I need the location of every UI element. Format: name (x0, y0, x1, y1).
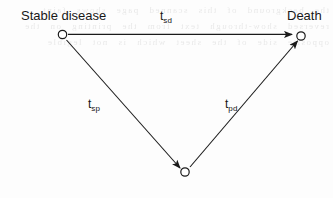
state-transition-diagram: the background of this scanned page show… (0, 0, 333, 198)
edge-label-t-sp: tsp (88, 97, 100, 113)
edge-stable-to-progression (67, 40, 181, 168)
edge-progression-to-death (190, 41, 298, 167)
node-label-stable-disease: Stable disease (21, 8, 106, 23)
edge-label-t-pd: tpd (225, 97, 238, 113)
edge-label-t-sp-subscript: sp (91, 104, 100, 113)
edge-label-t-sd-subscript: sd (163, 16, 172, 25)
node-label-death: Death (287, 8, 322, 23)
edge-label-t-pd-subscript: pd (228, 104, 237, 113)
node-progression (181, 168, 189, 176)
node-stable-disease (58, 30, 66, 38)
node-death (297, 32, 305, 40)
diagram-canvas (0, 0, 333, 198)
edge-label-t-sd: tsd (160, 9, 172, 25)
